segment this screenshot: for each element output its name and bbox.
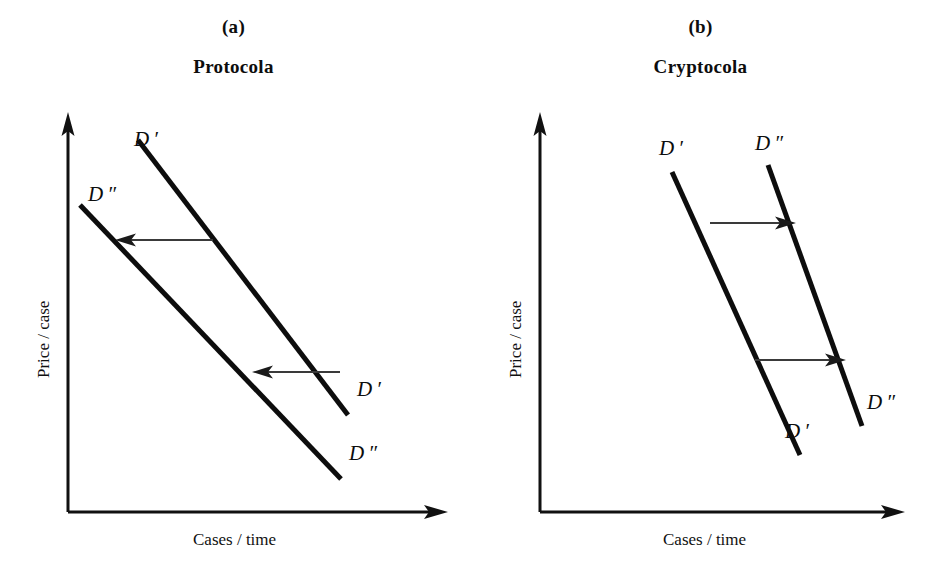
- x-axis-label-cryptocola: Cases / time: [663, 530, 746, 550]
- curve-label-d-prime-bottom-protocola: D ′: [357, 377, 381, 402]
- y-axis-label-cryptocola: Price / case: [506, 301, 526, 378]
- demand-curve-d-double-prime-protocola: [80, 205, 341, 479]
- demand-shift-figure: (a) Protocola: [0, 0, 934, 561]
- x-axis-protocola: [68, 505, 448, 519]
- panel-letter-a: (a): [0, 16, 467, 38]
- curve-label-d-double-prime-bottom-cryptocola: D ″: [867, 390, 895, 415]
- plot-area-protocola: [0, 0, 467, 561]
- curve-label-d-double-prime-top-cryptocola: D ″: [755, 131, 783, 156]
- shift-arrow-upper-protocola: [115, 234, 213, 247]
- chart-panel-protocola: (a) Protocola: [0, 0, 467, 561]
- shift-arrow-lower-protocola: [252, 366, 340, 379]
- chart-panel-cryptocola: (b) Cryptocola: [467, 0, 934, 561]
- y-axis-label-protocola: Price / case: [34, 301, 54, 378]
- demand-curve-d-prime-cryptocola: [672, 172, 800, 455]
- y-axis-protocola: [62, 112, 75, 512]
- curve-label-d-prime-bottom-cryptocola: D ′: [785, 419, 809, 444]
- x-axis-cryptocola: [540, 505, 905, 519]
- demand-curve-d-double-prime-cryptocola: [768, 165, 862, 426]
- curve-label-d-prime-top-cryptocola: D ′: [659, 136, 683, 161]
- curve-label-d-prime-top-protocola: D ′: [134, 127, 158, 152]
- shift-arrow-lower-cryptocola: [755, 354, 846, 367]
- y-axis-cryptocola: [534, 112, 547, 512]
- panel-letter-b: (b): [467, 16, 934, 38]
- x-axis-label-protocola: Cases / time: [193, 530, 276, 550]
- shift-arrow-upper-cryptocola: [710, 217, 796, 230]
- panel-title-protocola: Protocola: [0, 56, 467, 78]
- curve-label-d-double-prime-bottom-protocola: D ″: [349, 441, 377, 466]
- panel-title-cryptocola: Cryptocola: [467, 56, 934, 78]
- curve-label-d-double-prime-top-protocola: D ″: [88, 182, 116, 207]
- plot-area-cryptocola: [467, 0, 934, 561]
